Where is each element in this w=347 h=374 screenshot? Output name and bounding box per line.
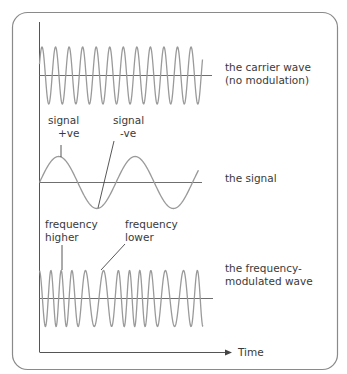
frequency-higher-annotation-line-1: frequency: [45, 218, 98, 230]
carrier-label-line-2: (no modulation): [225, 74, 309, 86]
frequency-lower-annotation-line-1: frequency: [125, 218, 178, 230]
fm-label-line-1: the frequency-: [225, 262, 302, 274]
signal-negative-leader: [98, 141, 114, 208]
fm-label-line-2: modulated wave: [225, 275, 313, 287]
fm-panel: the frequency- modulated wave frequency …: [40, 218, 313, 327]
time-axis-label: Time: [237, 346, 264, 358]
signal-positive-annotation-line-2: +ve: [58, 127, 79, 139]
signal-negative-annotation-line-1: signal: [113, 114, 144, 126]
signal-panel: the signal signal +ve signal -ve: [40, 114, 277, 209]
time-axis-arrow-icon: [225, 350, 232, 356]
carrier-label-line-1: the carrier wave: [225, 61, 311, 73]
signal-negative-annotation-line-2: -ve: [120, 127, 136, 139]
fm-diagram: Time the carrier wave (no modulation) th…: [0, 0, 347, 374]
frequency-higher-annotation-line-2: higher: [45, 231, 79, 243]
signal-positive-annotation-line-1: signal: [48, 114, 79, 126]
carrier-panel: the carrier wave (no modulation): [40, 47, 311, 104]
signal-label: the signal: [225, 172, 277, 184]
frequency-lower-leader: [101, 244, 125, 270]
frequency-lower-annotation-line-2: lower: [125, 231, 154, 243]
